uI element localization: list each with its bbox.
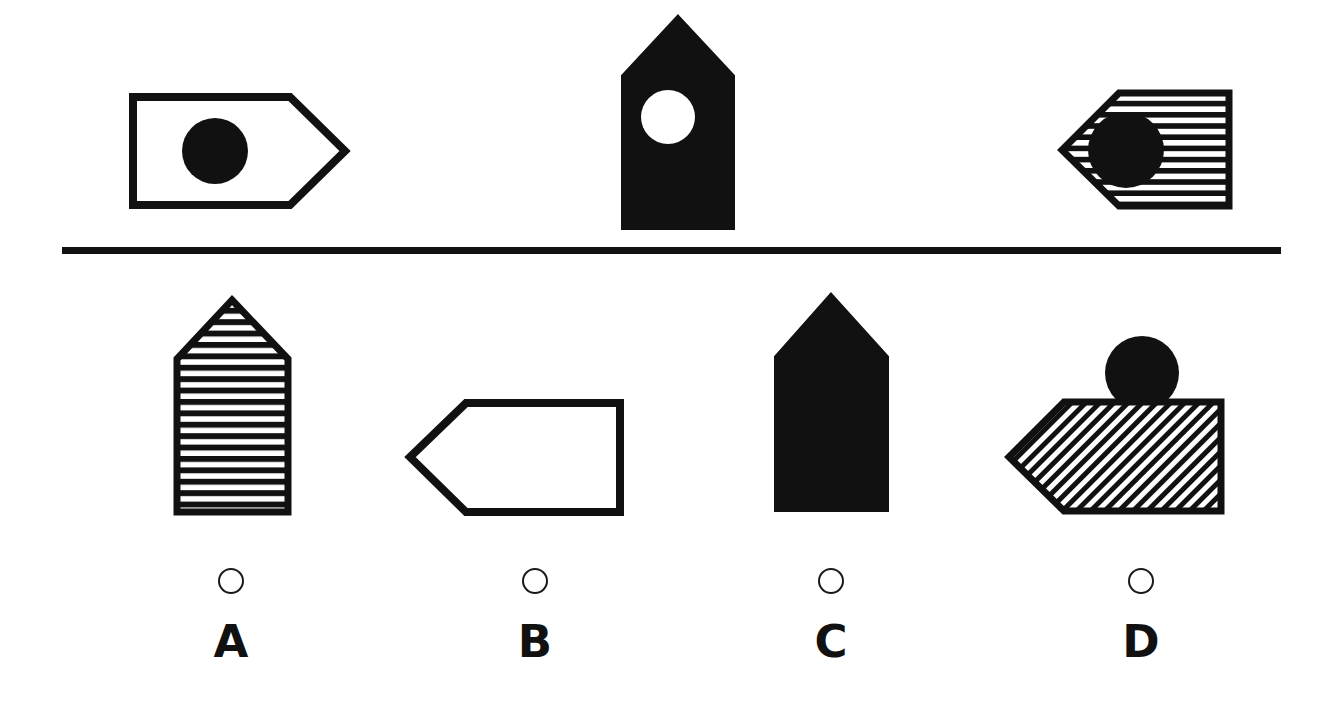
horizontal-rule xyxy=(62,247,1281,254)
option-letter-c: C xyxy=(791,619,871,664)
white-circle xyxy=(641,90,695,144)
pennant-left-outline xyxy=(410,403,620,512)
option-letter-b: B xyxy=(495,619,575,664)
radio-option-c[interactable] xyxy=(818,568,844,594)
house-up-solid xyxy=(776,295,887,510)
puzzle-canvas xyxy=(0,0,1331,720)
option-letter-a: A xyxy=(191,619,271,664)
option-shape-a[interactable] xyxy=(177,300,288,512)
radio-option-a[interactable] xyxy=(218,568,244,594)
option-letter-d: D xyxy=(1101,619,1181,664)
black-circle xyxy=(182,118,248,184)
problem-shape-2 xyxy=(623,17,733,228)
radio-option-b[interactable] xyxy=(522,568,548,594)
option-shape-b[interactable] xyxy=(410,403,620,512)
problem-shape-3 xyxy=(1062,93,1229,206)
radio-option-d[interactable] xyxy=(1128,568,1154,594)
option-shape-d[interactable] xyxy=(1009,336,1221,511)
option-shape-c[interactable] xyxy=(776,295,887,510)
problem-shape-1 xyxy=(133,97,345,205)
black-circle xyxy=(1088,112,1164,188)
house-up-striped xyxy=(177,300,288,512)
pennant-left-hatched xyxy=(1009,402,1221,511)
